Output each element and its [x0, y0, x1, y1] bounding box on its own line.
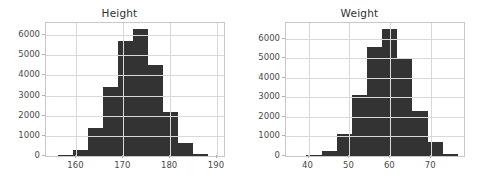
y-tick-mark [42, 34, 45, 35]
gridline-horizontal [46, 116, 224, 117]
y-tick-label: 1000 [18, 130, 40, 140]
y-tick-label: 1000 [258, 130, 280, 140]
x-tick-label: 50 [343, 160, 354, 170]
gridline-horizontal [286, 78, 464, 79]
y-tick-mark [282, 38, 285, 39]
y-tick-label: 3000 [258, 91, 280, 101]
y-tick-label: 6000 [258, 33, 280, 43]
histogram-bar [88, 128, 103, 156]
histogram-bar [148, 65, 163, 156]
chart-title-height: Height [0, 7, 239, 19]
histogram-bar [352, 95, 367, 156]
histogram-bar [58, 155, 73, 156]
gridline-vertical [431, 23, 432, 156]
axes-weight [285, 22, 465, 157]
y-tick-label: 2000 [258, 111, 280, 121]
histogram-bar [193, 154, 208, 156]
y-tick-mark [42, 95, 45, 96]
y-tick-label: 2000 [18, 110, 40, 120]
x-tick-mark [308, 155, 309, 158]
axes-height [45, 22, 225, 157]
x-tick-label: 170 [114, 160, 130, 170]
histogram-bar [118, 41, 133, 156]
gridline-horizontal [46, 96, 224, 97]
histogram-bar [428, 142, 443, 156]
y-tick-label: 4000 [258, 72, 280, 82]
x-tick-mark [216, 155, 217, 158]
y-tick-label: 0 [35, 150, 40, 160]
histogram-bar [103, 87, 118, 156]
gridline-vertical [170, 23, 171, 156]
histogram-bar [367, 47, 382, 156]
y-tick-mark [42, 155, 45, 156]
y-tick-mark [42, 74, 45, 75]
x-tick-mark [122, 155, 123, 158]
x-tick-mark [169, 155, 170, 158]
y-tick-mark [42, 135, 45, 136]
y-tick-mark [282, 57, 285, 58]
y-tick-mark [282, 135, 285, 136]
gridline-vertical [123, 23, 124, 156]
panel-height: Height 010002000300040005000600016017018… [0, 0, 239, 183]
y-tick-label: 5000 [258, 52, 280, 62]
histogram-bar [178, 143, 193, 156]
y-tick-mark [42, 115, 45, 116]
histogram-bar [443, 154, 458, 156]
histogram-bar [133, 29, 148, 156]
x-tick-mark [430, 155, 431, 158]
y-tick-mark [282, 116, 285, 117]
gridline-horizontal [286, 136, 464, 137]
figure-histograms: Height 010002000300040005000600016017018… [0, 0, 479, 183]
gridline-vertical [217, 23, 218, 156]
y-tick-label: 4000 [18, 69, 40, 79]
y-tick-label: 6000 [18, 29, 40, 39]
gridline-vertical [349, 23, 350, 156]
x-tick-label: 160 [67, 160, 83, 170]
gridline-horizontal [286, 117, 464, 118]
y-tick-mark [282, 155, 285, 156]
y-tick-label: 3000 [18, 90, 40, 100]
gridline-vertical [76, 23, 77, 156]
y-tick-label: 5000 [18, 49, 40, 59]
y-tick-mark [42, 54, 45, 55]
x-tick-label: 60 [384, 160, 395, 170]
gridline-horizontal [286, 58, 464, 59]
gridline-horizontal [46, 55, 224, 56]
chart-title-weight: Weight [240, 7, 479, 19]
x-tick-label: 40 [302, 160, 313, 170]
gridline-horizontal [46, 75, 224, 76]
gridline-horizontal [286, 97, 464, 98]
x-tick-mark [389, 155, 390, 158]
gridline-horizontal [46, 136, 224, 137]
x-tick-label: 70 [425, 160, 436, 170]
panel-weight: Weight 010002000300040005000600040506070 [240, 0, 479, 183]
gridline-horizontal [46, 35, 224, 36]
x-tick-label: 190 [208, 160, 224, 170]
x-tick-mark [348, 155, 349, 158]
x-tick-label: 180 [161, 160, 177, 170]
gridline-vertical [309, 23, 310, 156]
gridline-vertical [390, 23, 391, 156]
gridline-horizontal [286, 39, 464, 40]
x-tick-mark [75, 155, 76, 158]
y-tick-mark [282, 77, 285, 78]
histogram-bar [322, 151, 337, 156]
histogram-bar [397, 59, 412, 156]
y-tick-label: 0 [275, 150, 280, 160]
y-tick-mark [282, 96, 285, 97]
